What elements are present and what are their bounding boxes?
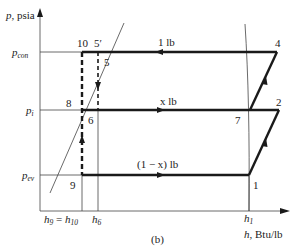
p-con-label: pcon bbox=[11, 46, 29, 60]
intermediate-flow-label: x lb bbox=[160, 95, 177, 107]
x-axis-arrow-icon bbox=[280, 208, 290, 214]
state-4-label: 4 bbox=[275, 37, 281, 49]
y-axis-label: p, psia bbox=[5, 9, 35, 21]
state-1-label: 1 bbox=[253, 179, 259, 191]
y-axis-arrow-icon bbox=[37, 8, 43, 17]
state-2-label: 2 bbox=[276, 96, 282, 108]
state-8-label: 8 bbox=[66, 97, 72, 109]
condenser-flow-arrow-icon bbox=[155, 49, 163, 55]
throttle-5-6-arrow-icon bbox=[95, 82, 101, 90]
state-5p-label: 5′ bbox=[94, 37, 102, 49]
h9-h10-label: h9 = h10 bbox=[44, 213, 78, 227]
p-h-diagram: p, psia h, Btu/lb (b) pcon pi pev h9 = h… bbox=[0, 0, 302, 252]
p-i-label: pi bbox=[25, 104, 34, 118]
x-axis-label: h, Btu/lb bbox=[244, 228, 283, 240]
state-5-label: 5 bbox=[104, 56, 110, 68]
state-6-label: 6 bbox=[88, 114, 94, 126]
evaporator-flow-label: (1 − x) lb bbox=[137, 158, 179, 171]
state-7-label: 7 bbox=[235, 114, 241, 126]
evaporator-flow-arrow-icon bbox=[157, 172, 165, 178]
h6-label: h6 bbox=[92, 213, 102, 227]
throttle-10-9-arrow-icon bbox=[79, 135, 85, 143]
condenser-flow-label: 1 lb bbox=[158, 36, 175, 48]
p-ev-label: pev bbox=[21, 169, 35, 183]
intermediate-flow-arrow-icon bbox=[157, 107, 165, 113]
state-10-label: 10 bbox=[77, 37, 89, 49]
figure-caption: (b) bbox=[151, 233, 164, 246]
state-9-label: 9 bbox=[70, 179, 76, 191]
pressure-guides bbox=[40, 52, 82, 175]
h1-label: h1 bbox=[244, 212, 253, 226]
